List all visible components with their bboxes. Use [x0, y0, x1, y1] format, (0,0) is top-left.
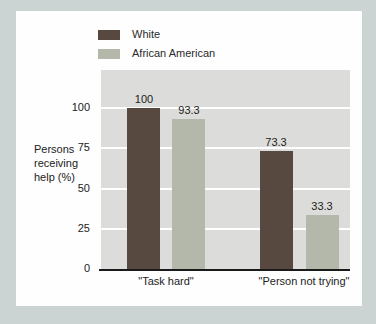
bar-african-american-task-hard — [172, 119, 205, 269]
bar-white-person-not-trying — [260, 151, 293, 269]
y-tick-75: 75 — [50, 141, 90, 153]
y-tick-100: 100 — [50, 101, 90, 113]
value-label-93.3: 93.3 — [164, 104, 214, 116]
x-axis-line — [99, 269, 350, 271]
value-label-73.3: 73.3 — [251, 136, 301, 148]
value-label-33.3: 33.3 — [297, 200, 347, 212]
y-tick-50: 50 — [50, 182, 90, 194]
legend-item-african-american: African American — [98, 44, 215, 63]
legend-label-african-american: African American — [132, 48, 215, 59]
bar-african-american-person-not-trying — [306, 215, 339, 269]
legend-label-white: White — [132, 29, 160, 40]
y-tick-0: 0 — [50, 262, 90, 274]
chart-panel: White African American Persons receiving… — [16, 11, 362, 306]
legend-swatch-african-american — [98, 49, 120, 59]
category-label-person-not-trying: "Person not trying" — [256, 275, 352, 288]
y-axis-title-line2: receiving — [34, 156, 98, 170]
figure-background: { "figure": { "background_color": "#cbd4… — [0, 0, 376, 324]
category-label-task-hard: "Task hard" — [118, 275, 214, 288]
value-label-100: 100 — [119, 93, 169, 105]
legend-item-white: White — [98, 25, 215, 44]
y-tick-25: 25 — [50, 222, 90, 234]
legend: White African American — [98, 25, 215, 63]
legend-swatch-white — [98, 30, 120, 40]
plot-area: 100 75 50 25 0 100 93.3 73.3 33.3 "Task … — [101, 70, 350, 269]
bar-white-task-hard — [127, 108, 160, 269]
